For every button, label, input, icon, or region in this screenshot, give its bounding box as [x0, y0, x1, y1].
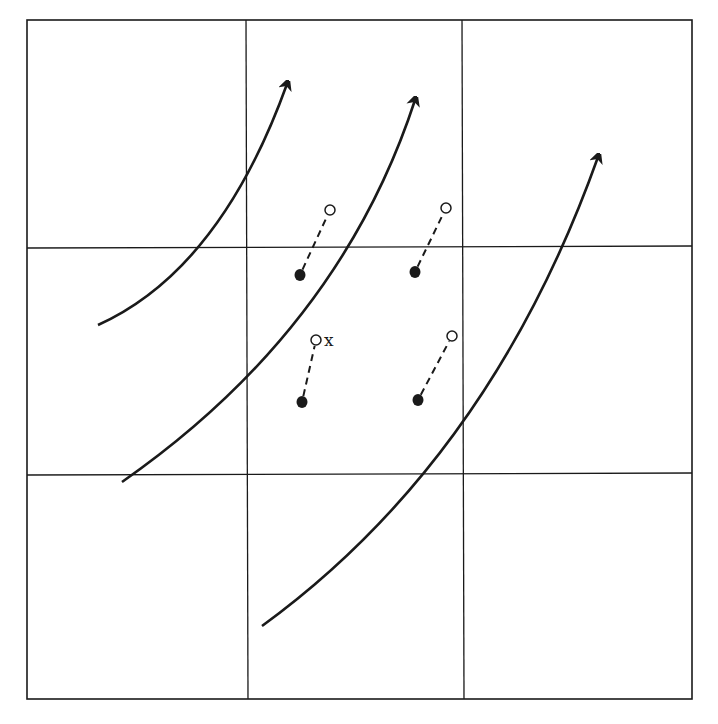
grid-vertical-line-2	[462, 20, 464, 699]
grid	[27, 20, 692, 699]
particle-displacements: x	[295, 203, 458, 408]
flow-arrow-2	[122, 100, 415, 482]
particle-p4	[413, 331, 458, 406]
flow-arrow-3	[262, 157, 598, 626]
flow-arrow-1	[98, 84, 287, 325]
displacement-dashed-line	[418, 213, 444, 266]
particle-p1	[295, 205, 336, 281]
solid-dot-icon	[297, 396, 308, 408]
open-circle-icon	[325, 205, 335, 215]
solid-dot-icon	[295, 269, 306, 281]
flow-arrows	[98, 84, 598, 626]
open-circle-icon	[447, 331, 457, 341]
open-circle-icon	[441, 203, 451, 213]
grid-horizontal-line-1	[27, 246, 692, 248]
open-circle-icon	[311, 335, 321, 345]
particle-p2	[410, 203, 452, 278]
solid-dot-icon	[413, 394, 424, 406]
grid-horizontal-line-2	[27, 473, 692, 475]
solid-dot-icon	[410, 266, 421, 278]
displacement-dashed-line	[303, 346, 314, 396]
particle-p3: x	[297, 330, 335, 408]
grid-vertical-line-1	[246, 20, 248, 699]
displacement-dashed-line	[303, 215, 328, 269]
particle-label: x	[324, 330, 334, 350]
displacement-dashed-line	[421, 341, 449, 394]
grid-border	[27, 20, 692, 699]
grid-flow-diagram: x	[0, 0, 718, 724]
